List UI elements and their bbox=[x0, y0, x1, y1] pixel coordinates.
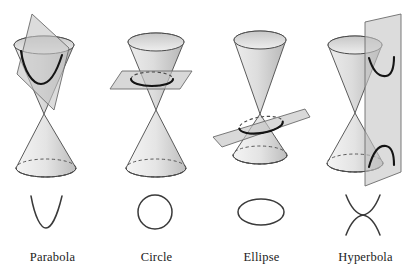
curve-2d-parabola bbox=[31, 196, 62, 228]
hyperbola-diagram bbox=[313, 0, 418, 240]
circle-diagram bbox=[104, 0, 209, 240]
cone-lower-nappe bbox=[16, 114, 76, 177]
label-parabola: Parabola bbox=[0, 251, 105, 264]
parabola-diagram bbox=[0, 0, 105, 240]
panel-parabola: Parabola bbox=[0, 0, 105, 269]
panel-ellipse: Ellipse bbox=[209, 0, 314, 269]
label-hyperbola: Hyperbola bbox=[313, 251, 418, 264]
curve-2d-hyperbola-lower bbox=[346, 215, 380, 235]
label-ellipse: Ellipse bbox=[209, 251, 314, 264]
cutting-plane bbox=[17, 14, 69, 110]
curve-2d-hyperbola-upper bbox=[346, 195, 380, 215]
label-circle: Circle bbox=[104, 251, 209, 264]
conic-sections-figure: Parabola bbox=[0, 0, 418, 269]
panel-circle: Circle bbox=[104, 0, 209, 269]
cone-upper-nappe bbox=[234, 31, 286, 114]
ellipse-diagram bbox=[209, 0, 314, 240]
cone-top-rim bbox=[234, 31, 286, 49]
cone-lower-nappe bbox=[126, 110, 186, 177]
panel-hyperbola: Hyperbola bbox=[313, 0, 418, 269]
curve-2d-ellipse bbox=[238, 199, 284, 225]
curve-2d-circle bbox=[138, 195, 172, 229]
cone-top-rim bbox=[128, 33, 184, 51]
